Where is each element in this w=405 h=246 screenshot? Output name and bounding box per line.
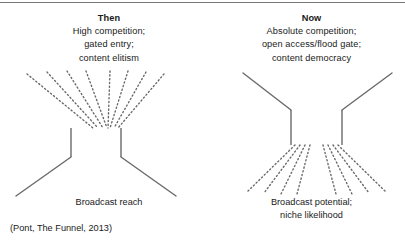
now-top-line-2: open access/flood gate; <box>218 38 405 51</box>
now-title: Now <box>218 12 405 25</box>
then-top-line-3: content elitism <box>0 52 218 65</box>
source-note: (Pont, The Funnel, 2013) <box>10 222 112 234</box>
now-bottom-line-2: niche likelihood <box>218 209 405 222</box>
now-bottom-line-1: Broadcast potential; <box>218 196 405 209</box>
now-bottom-caption: Broadcast potential; niche likelihood <box>218 196 405 222</box>
figure-canvas: Then High competition; gated entry; cont… <box>0 0 405 246</box>
then-bottom-line-1: Broadcast reach <box>0 196 218 209</box>
then-top-line-2: gated entry; <box>0 38 218 51</box>
now-top-line-1: Absolute competition; <box>218 25 405 38</box>
now-top-line-3: content democracy <box>218 52 405 65</box>
then-top-caption: Then High competition; gated entry; cont… <box>0 12 218 65</box>
then-top-line-1: High competition; <box>0 25 218 38</box>
then-bottom-caption: Broadcast reach <box>0 196 218 209</box>
panel-now: Now Absolute competition; open access/fl… <box>218 0 405 246</box>
now-top-caption: Now Absolute competition; open access/fl… <box>218 12 405 65</box>
panel-then: Then High competition; gated entry; cont… <box>0 0 218 246</box>
then-title: Then <box>0 12 218 25</box>
